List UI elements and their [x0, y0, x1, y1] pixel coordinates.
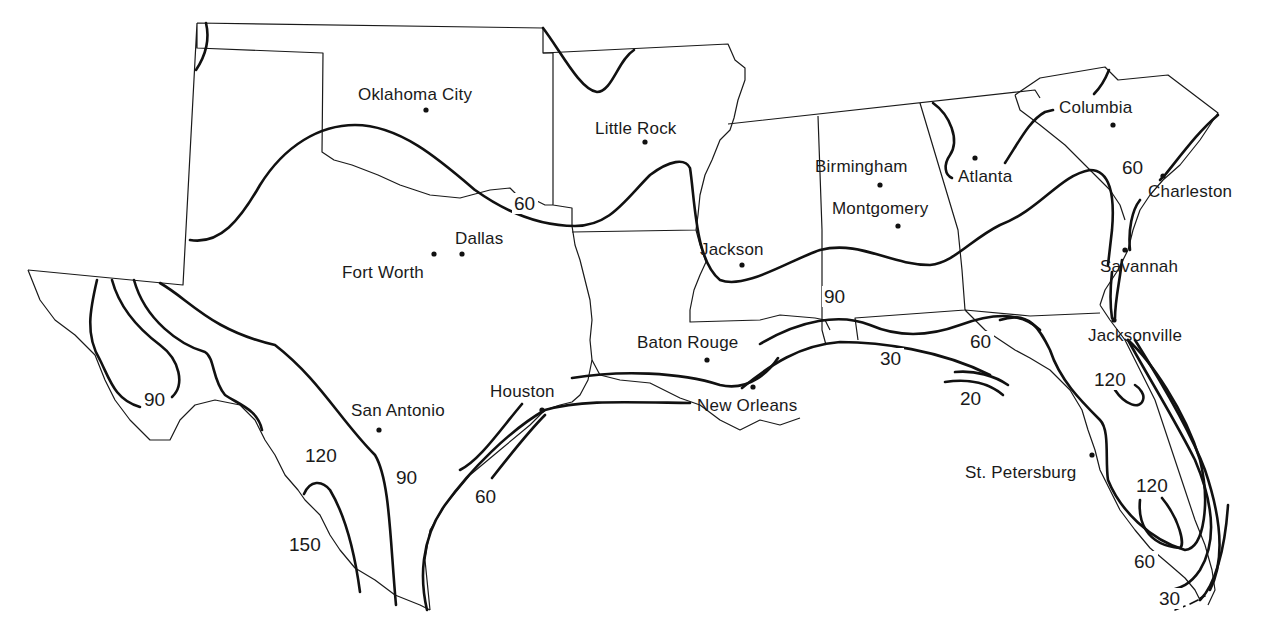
isoline-oklahoma-corner [196, 23, 208, 70]
city-dot-st-petersburg [1089, 452, 1094, 457]
city-label-new-orleans: New Orleans [697, 396, 797, 415]
isoline-columbia [1005, 110, 1053, 163]
city-label-dallas: Dallas [455, 229, 503, 248]
city-dot-little-rock [642, 139, 647, 144]
isoline-value-label: 20 [960, 388, 981, 409]
isoline-90-west-b [112, 280, 179, 397]
city-label-st-petersburg: St. Petersburg [965, 463, 1076, 482]
isoline-60-gulf-b [423, 402, 690, 610]
isoline-90-central [760, 316, 1040, 344]
isoline-value-label: 60 [1122, 157, 1143, 178]
city-label-atlanta: Atlanta [958, 167, 1013, 186]
city-dot-new-orleans [750, 384, 755, 389]
city-dot-jackson [739, 262, 744, 267]
isoline-label-layer: 6090120150906090306020601201206030 [142, 157, 1183, 609]
isoline-value-label: 90 [144, 389, 165, 410]
city-dot-savannah [1122, 247, 1127, 252]
city-dot-atlanta [972, 155, 977, 160]
isoline-value-label: 120 [1094, 369, 1126, 390]
isoline-value-label: 120 [1136, 475, 1168, 496]
isoline-gulf-inner [492, 415, 545, 478]
city-dot-birmingham [877, 182, 882, 187]
isolines [90, 23, 1228, 610]
city-dot-jacksonville [1111, 317, 1116, 322]
city-label-san-antonio: San Antonio [351, 401, 445, 420]
isoline-value-label: 60 [970, 331, 991, 352]
isoline-value-label: 60 [514, 193, 535, 214]
city-label-oklahoma-city: Oklahoma City [358, 85, 472, 104]
isoline-value-label: 60 [475, 486, 496, 507]
city-label-savannah: Savannah [1100, 257, 1178, 276]
city-label-jackson: Jackson [700, 240, 764, 259]
isoline-sc-top [1094, 70, 1109, 94]
city-label-little-rock: Little Rock [595, 119, 677, 138]
isoline-arkansas-lobe [543, 28, 634, 92]
city-dot-montgomery [895, 223, 900, 228]
isoline-value-label: 30 [1159, 588, 1180, 609]
city-dot-houston [539, 407, 544, 412]
city-dot-oklahoma-city [423, 107, 428, 112]
isoline-60-north [190, 125, 1113, 282]
city-dot-fort-worth [431, 251, 436, 256]
city-dot-columbia [1110, 122, 1115, 127]
city-dot-charleston [1160, 173, 1165, 178]
isoline-value-label: 30 [880, 348, 901, 369]
city-label-jacksonville: Jacksonville [1088, 326, 1182, 345]
isoline-georgia-lobe [933, 103, 954, 178]
city-label-charleston: Charleston [1148, 182, 1232, 201]
isoline-sc-coast [1160, 115, 1218, 180]
city-label-birmingham: Birmingham [815, 157, 908, 176]
isoline-90-texas [160, 283, 396, 605]
isoline-value-label: 150 [289, 534, 321, 555]
city-label-montgomery: Montgomery [832, 199, 929, 218]
city-dot-baton-rouge [704, 357, 709, 362]
isoline-value-label: 90 [396, 467, 417, 488]
city-label-fort-worth: Fort Worth [342, 263, 424, 282]
city-label-columbia: Columbia [1059, 98, 1133, 117]
city-label-baton-rouge: Baton Rouge [637, 333, 738, 352]
isoline-value-label: 120 [305, 445, 337, 466]
isoline-value-label: 90 [824, 286, 845, 307]
isoline-90-west-a [90, 280, 140, 407]
city-dot-dallas [459, 251, 464, 256]
isoline-60-houston-top [572, 358, 778, 386]
isoline-60-gulf-a [460, 404, 522, 470]
isoline-value-label: 60 [1134, 551, 1155, 572]
city-dot-san-antonio [376, 427, 381, 432]
isoline-map: Oklahoma CityLittle RockDallasFort Worth… [0, 0, 1269, 631]
city-label-houston: Houston [490, 382, 555, 401]
